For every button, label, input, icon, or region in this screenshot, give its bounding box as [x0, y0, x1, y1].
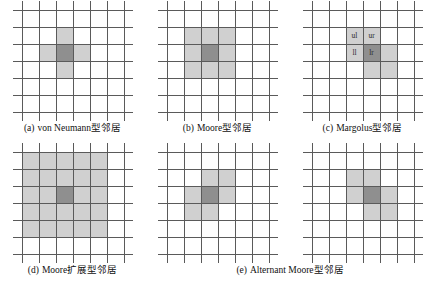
caption-text: Moore扩展型邻居 [42, 265, 117, 275]
caption-index: (a) [24, 123, 35, 133]
grid-line-horizontal [158, 254, 278, 255]
grid-line-vertical [124, 1, 125, 121]
neighbor-cell [346, 186, 363, 203]
neighbor-cell [39, 220, 56, 237]
neighborhood-figure: (a)von Neumann型邻居(b)Moore型邻居ulurlllr(c)M… [0, 0, 435, 285]
neighbor-cell [346, 169, 363, 186]
shaded-cells [167, 152, 269, 254]
neighbor-cell [380, 61, 397, 78]
shaded-cells [167, 10, 269, 112]
panel-moore-extended: (d)Moore扩展型邻居 [0, 142, 145, 284]
panel-alternant-moore-2 [290, 142, 435, 284]
shaded-cells [312, 152, 414, 254]
neighbor-cell [22, 203, 39, 220]
neighbor-cell [90, 152, 107, 169]
neighbor-cell [201, 203, 218, 220]
caption-index: (c) [323, 123, 334, 133]
neighbor-cell [184, 203, 201, 220]
grid-line-horizontal [303, 254, 423, 255]
neighbor-cell [201, 27, 218, 44]
neighbor-cell [73, 152, 90, 169]
neighbor-cell [201, 169, 218, 186]
caption-text: Moore型邻居 [197, 123, 252, 133]
cell-label-ul: ul [346, 27, 363, 44]
panel-margolus: ulurlllr(c)Margolus型邻居 [290, 0, 435, 142]
grid-line-vertical [414, 143, 415, 263]
neighbor-cell [363, 61, 380, 78]
grid-line-horizontal [13, 112, 133, 113]
neighbor-cell [39, 44, 56, 61]
panel-von-neumann: (a)von Neumann型邻居 [0, 0, 145, 142]
caption-margolus: (c)Margolus型邻居 [290, 120, 435, 134]
panel-alternant-moore-1: (e)Alternant Moore型邻居 [145, 142, 290, 284]
grid-line-horizontal [158, 112, 278, 113]
caption-index: (d) [28, 265, 39, 275]
grid-von-neumann [22, 10, 124, 112]
center-cell [363, 186, 380, 203]
neighbor-cell [73, 186, 90, 203]
neighbor-cell [56, 169, 73, 186]
neighbor-cell [22, 186, 39, 203]
neighbor-cell [380, 203, 397, 220]
neighbor-cell [56, 27, 73, 44]
neighbor-cell [380, 44, 397, 61]
neighbor-cell [90, 169, 107, 186]
grid-line-horizontal [13, 254, 133, 255]
center-cell [201, 186, 218, 203]
neighbor-cell [39, 152, 56, 169]
grid-alternant-moore-2 [312, 152, 414, 254]
neighbor-cell [218, 27, 235, 44]
neighbor-cell [90, 203, 107, 220]
grid-line-vertical [269, 143, 270, 263]
grid-moore [167, 10, 269, 112]
neighbor-cell [90, 186, 107, 203]
neighbor-cell [184, 61, 201, 78]
neighbor-cell [380, 186, 397, 203]
neighbor-cell [22, 220, 39, 237]
neighbor-cell [56, 220, 73, 237]
grid-alternant-moore-1 [167, 152, 269, 254]
cell-label-ll: ll [346, 44, 363, 61]
shaded-cells [312, 10, 414, 112]
neighbor-cell [56, 152, 73, 169]
shaded-cells [22, 10, 124, 112]
grid-line-horizontal [303, 112, 423, 113]
grid-margolus: ulurlllr [312, 10, 414, 112]
neighbor-cell [56, 61, 73, 78]
center-cell [56, 186, 73, 203]
neighbor-cell [22, 152, 39, 169]
neighbor-cell [73, 44, 90, 61]
caption-index: (e) [236, 265, 247, 275]
grid-line-vertical [124, 143, 125, 263]
shaded-cells [22, 152, 124, 254]
caption-moore-extended: (d)Moore扩展型邻居 [0, 262, 145, 276]
caption-moore: (b)Moore型邻居 [145, 120, 290, 134]
neighbor-cell [39, 169, 56, 186]
neighbor-cell [363, 169, 380, 186]
neighbor-cell [184, 44, 201, 61]
cell-label-ur: ur [363, 27, 380, 44]
neighbor-cell [56, 203, 73, 220]
caption-text: von Neumann型邻居 [37, 123, 121, 133]
caption-index: (b) [183, 123, 194, 133]
neighbor-cell [39, 203, 56, 220]
grid-line-vertical [269, 1, 270, 121]
neighbor-cell [22, 169, 39, 186]
neighbor-cell [363, 203, 380, 220]
grid-moore-extended [22, 152, 124, 254]
grid-line-vertical [414, 1, 415, 121]
cell-label-lr: lr [363, 44, 380, 61]
neighbor-cell [73, 203, 90, 220]
neighbor-cell [218, 169, 235, 186]
center-cell [201, 44, 218, 61]
neighbor-cell [73, 169, 90, 186]
neighbor-cell [218, 186, 235, 203]
neighbor-cell [201, 61, 218, 78]
neighbor-cell [184, 186, 201, 203]
neighbor-cell [218, 61, 235, 78]
panel-moore: (b)Moore型邻居 [145, 0, 290, 142]
neighbor-cell [73, 220, 90, 237]
neighbor-cell [39, 186, 56, 203]
neighbor-cell [218, 44, 235, 61]
caption-text: Margolus型邻居 [336, 123, 402, 133]
